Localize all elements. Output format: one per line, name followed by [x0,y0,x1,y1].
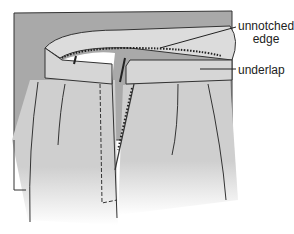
skirt-left [12,80,118,225]
label-unnotched-edge: unnotched edge [238,20,294,46]
label-unnotched-line2: edge [238,33,294,46]
waistband-right-front [126,60,232,84]
label-underlap: underlap [238,64,285,77]
